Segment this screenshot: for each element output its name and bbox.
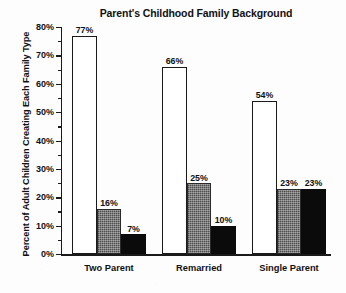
x-category-label: Two Parent [84, 263, 133, 273]
y-tick-label: 20% [36, 192, 54, 202]
bar-value-label: 77% [76, 25, 94, 35]
bar-gray-bar-single-parent: 23% [277, 189, 302, 254]
y-tick-label: 70% [36, 50, 54, 60]
y-tick-minor [58, 240, 62, 241]
plot-area: 0%10%20%30%40%50%60%70%80% 77%16%7%66%25… [61, 27, 331, 255]
x-axis-line [61, 254, 331, 256]
bar-value-label: 16% [100, 198, 118, 208]
y-tick-label: 0% [41, 249, 54, 259]
bar-value-label: 10% [215, 215, 233, 225]
y-tick-major [56, 84, 62, 85]
bar-value-label: 25% [190, 173, 208, 183]
y-tick-label: 40% [36, 136, 54, 146]
x-category-label: Remarried [176, 263, 222, 273]
bar-black-bar-single-parent: 23% [301, 189, 326, 254]
bar-value-label: 54% [256, 90, 274, 100]
chart-figure: Parent's Childhood Family Background Per… [0, 0, 346, 293]
y-tick-major [56, 112, 62, 113]
bar-black-bar-two-parent: 7% [121, 234, 146, 254]
y-tick-minor [58, 126, 62, 127]
bar-black-bar-remarried: 10% [211, 226, 236, 254]
y-tick-label: 50% [36, 107, 54, 117]
bar-value-label: 66% [166, 56, 184, 66]
y-tick-minor [58, 41, 62, 42]
x-category-label: Single Parent [259, 263, 318, 273]
y-tick-major [56, 141, 62, 142]
bar-value-label: 7% [127, 224, 140, 234]
y-tick-major [56, 226, 62, 227]
bar-value-label: 23% [280, 178, 298, 188]
y-tick-major [56, 169, 62, 170]
bar-value-label: 23% [305, 178, 323, 188]
chart-title: Parent's Childhood Family Background [60, 7, 332, 19]
y-tick-minor [58, 211, 62, 212]
y-tick-label: 60% [36, 79, 54, 89]
y-tick-major [56, 27, 62, 28]
y-tick-minor [58, 155, 62, 156]
bar-white-bar-single-parent: 54% [252, 101, 277, 254]
y-tick-major [56, 254, 62, 255]
y-axis-title: Percent of Adult Children Creating Each … [21, 25, 31, 263]
bar-white-bar-two-parent: 77% [72, 36, 97, 254]
bar-gray-bar-two-parent: 16% [97, 209, 122, 254]
bar-gray-bar-remarried: 25% [187, 183, 212, 254]
y-tick-label: 10% [36, 221, 54, 231]
y-tick-label: 80% [36, 22, 54, 32]
y-tick-minor [58, 183, 62, 184]
y-tick-minor [58, 98, 62, 99]
y-tick-major [56, 55, 62, 56]
y-tick-major [56, 197, 62, 198]
y-tick-minor [58, 70, 62, 71]
bar-white-bar-remarried: 66% [162, 67, 187, 254]
y-tick-label: 30% [36, 164, 54, 174]
